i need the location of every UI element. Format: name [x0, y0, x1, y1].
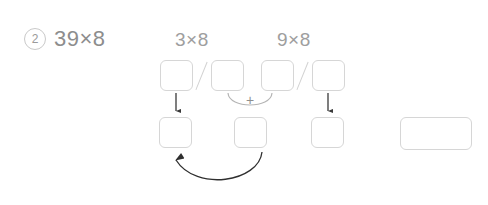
- answer-box-result-hundreds-digit[interactable]: [159, 117, 192, 148]
- partial-expression-ones: 9×8: [277, 29, 311, 51]
- answer-box-tens-product-ones-digit[interactable]: [211, 60, 244, 91]
- answer-box-result-tens-digit[interactable]: [234, 117, 267, 148]
- problem-number-text: 2: [32, 33, 39, 45]
- answer-box-ones-product-tens-digit[interactable]: [261, 60, 294, 91]
- answer-box-tens-product-tens-digit[interactable]: [160, 60, 193, 91]
- final-answer-box[interactable]: [400, 117, 472, 150]
- answer-box-result-ones-digit[interactable]: [311, 117, 344, 148]
- slash-separator-right: [296, 62, 309, 90]
- answer-box-ones-product-ones-digit[interactable]: [312, 60, 345, 91]
- partial-expression-tens: 3×8: [175, 29, 209, 51]
- plus-operator: +: [243, 93, 257, 107]
- carry-arrow: [176, 152, 262, 180]
- problem-expression: 39×8: [54, 26, 106, 52]
- slash-separator-left: [195, 62, 208, 90]
- problem-number-badge: 2: [24, 28, 46, 50]
- worksheet-problem-diagram: 2 39×8 3×8 9×8 +: [0, 0, 488, 205]
